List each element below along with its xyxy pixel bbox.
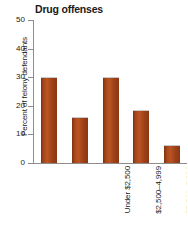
- x-category-label: Under $2,500: [123, 166, 132, 233]
- bar-chart: Drug offenses Percent of felony defendan…: [0, 0, 187, 233]
- bar: [103, 77, 119, 163]
- y-tick-mark: [28, 134, 33, 135]
- y-tick-label: 20: [1, 102, 25, 110]
- y-tick-label: 50: [1, 16, 25, 24]
- x-axis-category-labels: Under $2,500$2,500–4,999$5,000–9,999$10,…: [34, 166, 187, 233]
- y-tick-mark: [28, 77, 33, 78]
- x-category-label: $2,500–4,999: [154, 166, 163, 233]
- bar: [72, 117, 88, 163]
- bar: [164, 145, 180, 163]
- bars-container: [34, 20, 187, 163]
- y-tick-label: 40: [1, 45, 25, 53]
- bar: [41, 77, 57, 163]
- y-tick-mark: [28, 49, 33, 50]
- y-tick-mark: [28, 20, 33, 21]
- y-tick-mark: [28, 163, 33, 164]
- chart-title: Drug offenses: [35, 3, 103, 15]
- y-tick-label: 0: [1, 159, 25, 167]
- x-category-label: $5,000–9,999: [185, 166, 188, 233]
- y-tick-label: 10: [1, 130, 25, 138]
- bar: [133, 110, 149, 163]
- x-axis-line: [33, 163, 187, 164]
- y-tick-mark: [28, 106, 33, 107]
- y-tick-label: 30: [1, 73, 25, 81]
